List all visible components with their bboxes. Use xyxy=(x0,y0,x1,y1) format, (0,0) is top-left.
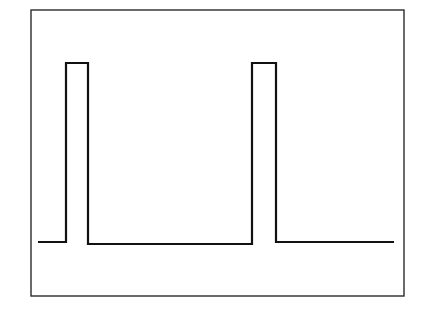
figure-root xyxy=(0,0,430,310)
plot-background xyxy=(0,0,430,310)
pulse-plot-svg xyxy=(0,0,430,310)
